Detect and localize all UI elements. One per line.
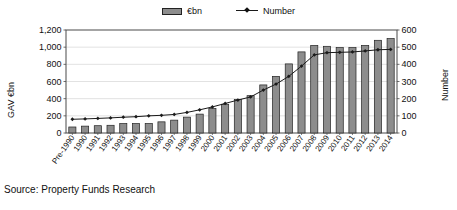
bar bbox=[158, 122, 165, 133]
x-axis-tick-label: 2014 bbox=[377, 133, 395, 153]
y-axis-left-title: GAV €bn bbox=[6, 82, 16, 118]
bar bbox=[323, 46, 330, 133]
y-axis-right-tick-label: 300 bbox=[402, 77, 417, 87]
y-axis-left-tick-label: 600 bbox=[46, 77, 61, 87]
bar bbox=[171, 120, 178, 133]
bar bbox=[222, 104, 229, 133]
line-marker bbox=[185, 111, 189, 115]
plot-area-wrapper: 02004006008001,0001,200 0100200300400500… bbox=[0, 0, 457, 175]
bar bbox=[107, 125, 114, 133]
line-marker bbox=[83, 117, 87, 121]
y-axis-right-tick-label: 200 bbox=[402, 94, 417, 104]
bar bbox=[94, 126, 101, 133]
bar bbox=[69, 127, 76, 133]
line-marker bbox=[134, 115, 138, 119]
y-axis-left-tick-label: 200 bbox=[46, 111, 61, 121]
bar bbox=[374, 40, 381, 133]
bar bbox=[349, 48, 356, 133]
line-marker bbox=[160, 113, 164, 117]
line-marker bbox=[198, 108, 202, 112]
y-axis-left-tick-label: 400 bbox=[46, 94, 61, 104]
y-axis-right-title: Number bbox=[440, 69, 450, 101]
bar-series bbox=[69, 39, 394, 133]
line-marker bbox=[147, 114, 151, 118]
y-axis-left-tick-label: 0 bbox=[56, 128, 61, 138]
bar bbox=[132, 124, 139, 133]
y-axis-left-ticks: 02004006008001,0001,200 bbox=[39, 25, 66, 138]
chart-figure: €bn Number 02004006008001,0001,200 01002… bbox=[0, 0, 457, 175]
line-marker bbox=[70, 117, 74, 121]
line-series-markers bbox=[70, 47, 392, 121]
bar bbox=[183, 117, 190, 133]
bar bbox=[260, 85, 267, 133]
source-caption: Source: Property Funds Research bbox=[4, 184, 155, 196]
y-axis-right-ticks: 0100200300400500600 bbox=[397, 25, 417, 138]
y-axis-left-tick-label: 1,000 bbox=[39, 42, 62, 52]
bar bbox=[362, 45, 369, 133]
bar bbox=[311, 45, 318, 133]
bar bbox=[120, 124, 127, 133]
line-marker bbox=[109, 116, 113, 120]
bar bbox=[209, 109, 216, 133]
y-axis-right-tick-label: 400 bbox=[402, 59, 417, 69]
y-axis-right-tick-label: 600 bbox=[402, 25, 417, 35]
y-axis-right-tick-label: 500 bbox=[402, 42, 417, 52]
bar bbox=[82, 126, 89, 133]
y-axis-right-tick-label: 100 bbox=[402, 111, 417, 121]
bar bbox=[247, 96, 254, 133]
chart-canvas: 02004006008001,0001,200 0100200300400500… bbox=[0, 0, 457, 175]
y-axis-left-tick-label: 1,200 bbox=[39, 25, 62, 35]
bar bbox=[336, 48, 343, 133]
line-marker bbox=[96, 117, 100, 121]
bar bbox=[196, 114, 203, 133]
y-axis-left-tick-label: 800 bbox=[46, 59, 61, 69]
gridlines bbox=[66, 47, 397, 116]
bar bbox=[234, 100, 241, 133]
y-axis-right-tick-label: 0 bbox=[402, 128, 407, 138]
x-axis-ticks: Pre-199019901991199219931994199519961997… bbox=[50, 133, 395, 166]
bar bbox=[145, 124, 152, 133]
bar bbox=[387, 39, 394, 133]
